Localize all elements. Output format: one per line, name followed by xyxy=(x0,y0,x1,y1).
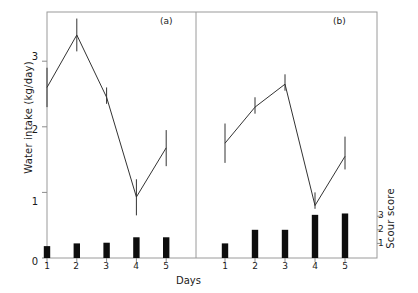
scour-bar-b-day4 xyxy=(312,215,318,258)
intake-line-b xyxy=(225,84,345,205)
scour-bar-a-day5 xyxy=(163,237,169,258)
scour-bar-b-day1 xyxy=(222,243,228,258)
scour-bar-a-day4 xyxy=(133,237,139,258)
figure-container: Water intake (kg/day) Scour score Days (… xyxy=(0,0,418,293)
scour-bar-a-day1 xyxy=(44,246,50,258)
intake-line-a xyxy=(47,35,166,197)
scour-bar-b-day3 xyxy=(282,230,288,258)
scour-bar-b-day2 xyxy=(252,230,258,258)
plot-canvas xyxy=(0,0,418,293)
scour-bar-a-day3 xyxy=(103,243,109,258)
scour-bar-b-day5 xyxy=(342,213,348,258)
scour-bar-a-day2 xyxy=(74,243,80,258)
plot-frame xyxy=(47,12,377,258)
